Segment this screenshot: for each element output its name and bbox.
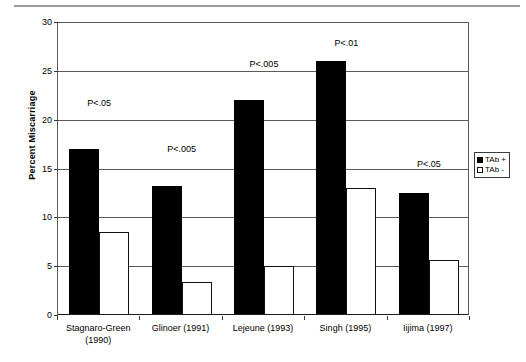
bar-chart-figure: Percent Miscarriage 051015202530 P<.05P<… [0,0,526,362]
x-axis-category-label: Glinoer (1991) [152,322,210,334]
pvalue-label: P<.01 [335,38,359,48]
bar-tab-negative [429,260,459,315]
bar-tab-positive [316,61,346,315]
bar-tab-negative [264,266,294,315]
chart-legend: TAb +TAb - [474,152,510,178]
pvalue-label: P<.05 [87,98,111,108]
x-axis-tick-mark [139,316,140,320]
bar-group [58,22,140,315]
x-axis-category-label: Lejeune (1993) [233,322,294,334]
bar-tab-positive [234,100,264,315]
plot-area: 051015202530 P<.05P<.005P<.005P<.01P<.05 [57,22,469,315]
pvalue-label: P<.05 [417,159,441,169]
y-axis-tick-label: 10 [42,212,52,222]
bar-tab-positive [69,149,99,315]
legend-item-label: TAb + [485,155,506,165]
bar-tab-negative [346,188,376,315]
x-axis-tick-mark [304,316,305,320]
bar-tab-negative [182,282,212,315]
bar-tab-negative [99,232,129,315]
x-axis-category-label: Iijima (1997) [403,322,453,334]
legend-item: TAb + [477,155,506,165]
legend-item: TAb - [477,165,506,175]
pvalue-label: P<.005 [167,144,196,154]
y-axis-title: Percent Miscarriage [27,65,37,205]
x-axis-tick-mark [222,316,223,320]
bar-group [305,22,387,315]
bar-tab-positive [399,193,429,315]
x-axis-category-label: Singh (1995) [320,322,372,334]
x-axis-tick-mark [387,316,388,320]
y-axis-tick-label: 25 [42,66,52,76]
x-axis-tick-mark [469,316,470,320]
legend-item-label: TAb - [485,165,504,175]
bar-group [140,22,222,315]
y-axis-tick-label: 15 [42,164,52,174]
pvalue-label: P<.005 [250,59,279,69]
legend-swatch-filled-icon [477,157,483,163]
y-axis-tick-label: 20 [42,115,52,125]
legend-swatch-open-icon [477,167,483,173]
y-axis-tick-label: 30 [42,17,52,27]
x-axis-tick-mark [57,316,58,320]
y-axis-tick-label: 5 [47,261,52,271]
bar-tab-positive [152,186,182,315]
x-axis-category-label: Stagnaro-Green (1990) [66,322,131,346]
x-axis-line [58,314,468,315]
y-axis-tick-label: 0 [47,310,52,320]
